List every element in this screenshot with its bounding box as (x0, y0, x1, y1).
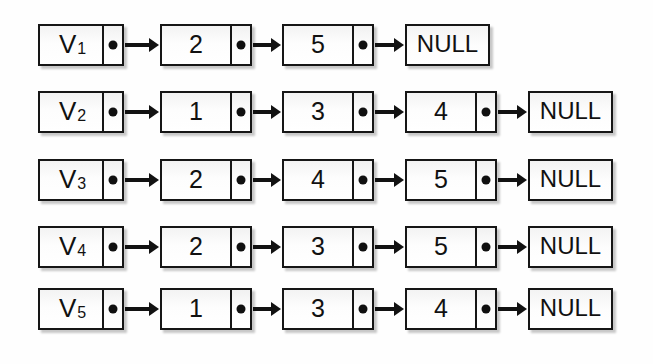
pointer-dot-icon (109, 176, 118, 185)
list-node: 4 (282, 159, 374, 201)
pointer-arrow (498, 245, 518, 249)
pointer-dot-icon (237, 176, 246, 185)
next-pointer-cell (352, 228, 372, 266)
pointer-dot-icon (237, 243, 246, 252)
next-pointer-cell (475, 161, 495, 199)
list-node-value: 1 (162, 290, 230, 328)
pointer-dot-icon (359, 243, 368, 252)
pointer-arrow (375, 110, 395, 114)
next-pointer-cell (352, 26, 372, 64)
pointer-arrow (253, 245, 272, 249)
list-node: 3 (282, 226, 374, 268)
vertex-label: V1 (40, 26, 102, 64)
null-terminator-box: NULL (528, 288, 613, 330)
pointer-arrow (125, 245, 150, 249)
adjacency-list-row: V3245NULL (0, 159, 653, 203)
pointer-dot-icon (237, 305, 246, 314)
pointer-arrow (498, 110, 518, 114)
pointer-arrow (498, 178, 518, 182)
list-node: 3 (282, 288, 374, 330)
pointer-dot-icon (482, 305, 491, 314)
list-node-value: 5 (284, 26, 352, 64)
vertex-head-node: V3 (38, 159, 124, 201)
list-node: 3 (282, 91, 374, 133)
pointer-arrow (125, 43, 150, 47)
next-pointer-cell (352, 93, 372, 131)
list-node: 2 (160, 24, 252, 66)
next-pointer-cell (230, 161, 250, 199)
vertex-index-subscript: 5 (77, 305, 86, 321)
next-pointer-cell (475, 290, 495, 328)
next-pointer-cell (102, 161, 122, 199)
null-terminator-box: NULL (528, 226, 613, 268)
next-pointer-cell (102, 93, 122, 131)
pointer-arrow (498, 307, 518, 311)
pointer-dot-icon (359, 176, 368, 185)
vertex-label: V3 (40, 161, 102, 199)
pointer-dot-icon (359, 41, 368, 50)
list-node-value: 2 (162, 26, 230, 64)
null-terminator-box: NULL (405, 24, 490, 66)
pointer-dot-icon (482, 176, 491, 185)
next-pointer-cell (230, 228, 250, 266)
list-node-value: 2 (162, 161, 230, 199)
vertex-label: V5 (40, 290, 102, 328)
list-node: 1 (160, 91, 252, 133)
adjacency-list-row: V5134NULL (0, 288, 653, 332)
vertex-head-node: V2 (38, 91, 124, 133)
next-pointer-cell (230, 93, 250, 131)
vertex-index-subscript: 4 (77, 243, 86, 259)
pointer-arrow (375, 307, 395, 311)
pointer-dot-icon (237, 108, 246, 117)
vertex-index-subscript: 3 (77, 176, 86, 192)
adjacency-list-row: V125NULL (0, 24, 653, 68)
next-pointer-cell (352, 161, 372, 199)
list-node-value: 5 (407, 161, 475, 199)
next-pointer-cell (230, 290, 250, 328)
list-node: 2 (160, 159, 252, 201)
next-pointer-cell (475, 93, 495, 131)
list-node-value: 2 (162, 228, 230, 266)
pointer-dot-icon (109, 41, 118, 50)
vertex-index-subscript: 2 (77, 108, 86, 124)
list-node: 1 (160, 288, 252, 330)
list-node: 4 (405, 91, 497, 133)
pointer-arrow (125, 307, 150, 311)
list-node-value: 4 (284, 161, 352, 199)
pointer-arrow (375, 43, 395, 47)
pointer-dot-icon (482, 108, 491, 117)
list-node-value: 4 (407, 290, 475, 328)
pointer-arrow (253, 307, 272, 311)
diagram-canvas: V125NULLV2134NULLV3245NULLV4235NULLV5134… (0, 0, 653, 364)
vertex-label: V2 (40, 93, 102, 131)
pointer-dot-icon (237, 41, 246, 50)
list-node-value: 1 (162, 93, 230, 131)
pointer-arrow (125, 110, 150, 114)
list-node-value: 3 (284, 290, 352, 328)
next-pointer-cell (475, 228, 495, 266)
pointer-dot-icon (359, 305, 368, 314)
adjacency-list-row: V4235NULL (0, 226, 653, 270)
pointer-dot-icon (109, 305, 118, 314)
pointer-dot-icon (109, 243, 118, 252)
list-node: 2 (160, 226, 252, 268)
pointer-arrow (375, 245, 395, 249)
list-node: 5 (405, 159, 497, 201)
next-pointer-cell (102, 290, 122, 328)
pointer-arrow (253, 43, 272, 47)
pointer-dot-icon (359, 108, 368, 117)
next-pointer-cell (102, 228, 122, 266)
pointer-dot-icon (109, 108, 118, 117)
list-node: 5 (405, 226, 497, 268)
vertex-index-subscript: 1 (77, 41, 86, 57)
next-pointer-cell (230, 26, 250, 64)
null-terminator-box: NULL (528, 159, 613, 201)
list-node: 5 (282, 24, 374, 66)
pointer-arrow (253, 178, 272, 182)
pointer-arrow (125, 178, 150, 182)
vertex-head-node: V5 (38, 288, 124, 330)
list-node-value: 3 (284, 228, 352, 266)
list-node-value: 3 (284, 93, 352, 131)
vertex-head-node: V4 (38, 226, 124, 268)
list-node-value: 5 (407, 228, 475, 266)
